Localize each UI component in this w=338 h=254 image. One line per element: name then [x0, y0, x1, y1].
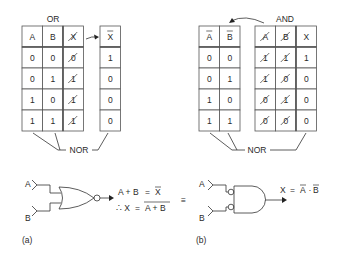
gate-b-input-b: B	[199, 213, 205, 223]
header-label: X	[303, 32, 309, 42]
cell-value: 1	[227, 116, 232, 126]
cell-value: 0	[283, 74, 288, 84]
eqb-equals: =	[290, 185, 295, 195]
header-label: A	[29, 32, 35, 42]
cell-value: 0	[108, 95, 113, 105]
nor-label-a: NOR	[70, 145, 89, 155]
equivalence-symbol: ≡	[181, 195, 186, 205]
nor-gate-symbol	[32, 180, 114, 216]
equation-b: X = A · B	[280, 185, 319, 195]
or-title: OR	[47, 14, 60, 24]
inverted-inputs-table: AB00011011	[199, 26, 240, 131]
cell-value: 1	[207, 95, 212, 105]
cell-value: 0	[207, 53, 212, 63]
eqb-term1: A	[300, 185, 306, 195]
and-truth-table: ABX111100010000	[255, 26, 317, 131]
caption-a: (a)	[22, 235, 33, 245]
gate-a-input-b: B	[25, 213, 31, 223]
cell-value: 1	[283, 53, 288, 63]
gate-a-input-a: A	[25, 179, 31, 189]
header-label: A	[206, 32, 212, 42]
cell-value: 1	[227, 74, 232, 84]
cell-value: 0	[30, 74, 35, 84]
eqb-lhs: X	[280, 185, 286, 195]
cell-value: 1	[50, 116, 55, 126]
cell-value: 0	[304, 95, 309, 105]
header-label: X	[107, 32, 113, 42]
cell-value: 1	[50, 74, 55, 84]
cell-value: 0	[283, 116, 288, 126]
cell-value: 1	[71, 74, 76, 84]
arrow-and-to-bar-table	[229, 18, 264, 23]
cell-value: 0	[207, 74, 212, 84]
cell-value: 1	[108, 53, 113, 63]
arrow-or-to-xbar	[86, 35, 99, 40]
cell-value: 0	[304, 116, 309, 126]
nor-equivalence-diagram: ABX000011101111X1000AB00011011ABX1111000…	[0, 0, 338, 254]
eq1-equals: =	[145, 187, 150, 197]
caption-b: (b)	[196, 235, 207, 245]
cell-value: 0	[263, 116, 268, 126]
cell-value: 1	[304, 53, 309, 63]
cell-value: 1	[263, 74, 268, 84]
cell-value: 0	[227, 53, 232, 63]
eq2-rhs: A + B	[145, 203, 166, 213]
eqb-dot: ·	[309, 185, 312, 195]
header-label: B	[227, 32, 233, 42]
equation-a-2: ∴ X = A + B	[116, 202, 170, 213]
eqb-term2: B	[313, 185, 319, 195]
cell-value: 0	[108, 74, 113, 84]
equation-a-1: A + B = X	[118, 187, 161, 197]
and-title: AND	[276, 14, 294, 24]
cell-value: 0	[263, 95, 268, 105]
cell-value: 1	[30, 95, 35, 105]
nor-label-b: NOR	[248, 145, 267, 155]
and-gate-inverted-inputs-symbol	[208, 180, 287, 216]
cell-value: 0	[50, 53, 55, 63]
cell-value: 1	[71, 116, 76, 126]
cell-value: 1	[263, 53, 268, 63]
cell-value: 1	[71, 95, 76, 105]
header-label: B	[50, 32, 56, 42]
xbar-table: X1000	[100, 26, 121, 131]
cell-value: 0	[30, 53, 35, 63]
eq2-equals: =	[135, 203, 140, 213]
or-truth-table: ABX000011101111	[22, 26, 84, 131]
cell-value: 0	[304, 74, 309, 84]
eq1-lhs: A + B	[118, 187, 139, 197]
cell-value: 0	[71, 53, 76, 63]
eq1-rhs: X	[155, 187, 161, 197]
cell-value: 0	[50, 95, 55, 105]
gate-b-input-a: A	[199, 179, 205, 189]
cell-value: 0	[227, 95, 232, 105]
eq2-prefix: ∴ X	[116, 203, 130, 213]
cell-value: 1	[283, 95, 288, 105]
cell-value: 1	[207, 116, 212, 126]
cell-value: 0	[108, 116, 113, 126]
cell-value: 1	[30, 116, 35, 126]
